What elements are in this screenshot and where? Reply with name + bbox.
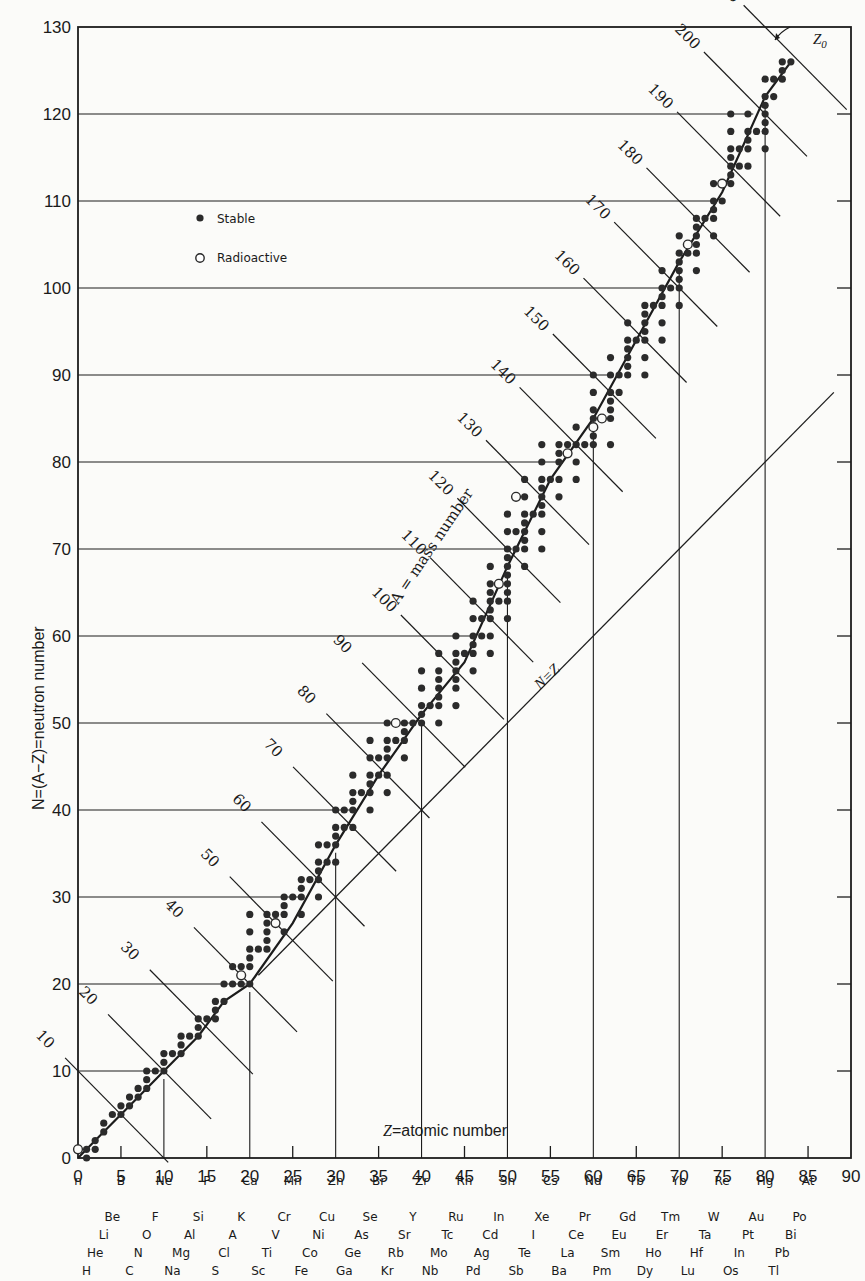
element-symbol: Re: [715, 1174, 730, 1188]
stable-point: [487, 598, 494, 605]
stable-point: [418, 719, 425, 726]
stable-point: [641, 354, 648, 361]
element-symbol: Be: [105, 1210, 121, 1224]
stable-point: [590, 389, 597, 396]
stable-point: [469, 667, 476, 674]
element-symbol: Sb: [508, 1264, 523, 1278]
isobar-line: [401, 615, 504, 719]
element-symbol: Te: [517, 1246, 531, 1260]
stable-point: [779, 58, 786, 65]
radioactive-point: [718, 179, 727, 188]
stable-point: [143, 1076, 150, 1083]
y-tick-label: 30: [52, 888, 71, 907]
isobar-line: [430, 558, 533, 662]
stable-point: [487, 589, 494, 596]
stable-point: [401, 754, 408, 761]
isobar-label: 140: [487, 355, 520, 388]
stable-point: [195, 1024, 202, 1031]
stable-point: [332, 833, 339, 840]
stable-point: [487, 650, 494, 657]
element-symbol: Bi: [785, 1228, 797, 1242]
stable-point: [332, 806, 339, 813]
stable-point: [650, 302, 657, 309]
stable-point: [658, 319, 665, 326]
isobar-label: 210: [711, 0, 744, 6]
stable-point: [727, 128, 734, 135]
isobar-line: [704, 52, 807, 156]
element-symbol: Kr: [381, 1264, 394, 1278]
stable-point: [538, 502, 545, 509]
stable-point: [418, 711, 425, 718]
stable-point: [710, 215, 717, 222]
stable-point: [409, 719, 416, 726]
y-tick-label: 0: [62, 1149, 71, 1168]
y-tick-label: 130: [43, 18, 71, 37]
stable-point: [624, 337, 631, 344]
element-symbol: I: [531, 1228, 535, 1242]
stable-point: [564, 441, 571, 448]
stable-point: [512, 545, 519, 552]
element-symbol: N: [134, 1246, 143, 1260]
stable-point: [83, 1146, 90, 1153]
stable-point: [435, 685, 442, 692]
stable-point: [487, 615, 494, 622]
stable-point: [762, 93, 769, 100]
legend: Stable Radioactive: [196, 212, 287, 265]
stable-point: [177, 1041, 184, 1048]
stable-point: [762, 145, 769, 152]
isobar-label: 150: [520, 302, 553, 335]
stable-point: [487, 580, 494, 587]
stable-point: [658, 302, 665, 309]
stable-point: [736, 163, 743, 170]
element-symbol: Mg: [172, 1246, 190, 1260]
stable-point: [435, 719, 442, 726]
stable-point: [762, 110, 769, 117]
element-symbol: Si: [193, 1210, 204, 1224]
element-symbol: Tb: [628, 1174, 644, 1188]
stable-point: [366, 772, 373, 779]
stable-point: [727, 154, 734, 161]
element-symbol: F: [152, 1210, 159, 1224]
element-symbol: Ba: [551, 1264, 567, 1278]
stable-point: [212, 1007, 219, 1014]
stable-point: [469, 632, 476, 639]
y-tick-label: 90: [52, 366, 71, 385]
stable-point: [590, 432, 597, 439]
stable-point: [581, 441, 588, 448]
stable-point: [521, 537, 528, 544]
stable-point: [727, 110, 734, 117]
isobar-line: [293, 767, 396, 871]
stable-point: [298, 885, 305, 892]
stable-point: [547, 476, 554, 483]
stable-point: [100, 1128, 107, 1135]
element-symbol: Pr: [579, 1210, 591, 1224]
stable-point: [504, 554, 511, 561]
stable-point: [607, 441, 614, 448]
stable-point: [478, 615, 485, 622]
stable-point: [676, 302, 683, 309]
stable-point: [255, 946, 262, 953]
stable-point: [607, 389, 614, 396]
stable-point: [744, 128, 751, 135]
element-symbol: Ti: [261, 1246, 272, 1260]
stable-point: [384, 789, 391, 796]
stable-point: [521, 519, 528, 526]
stable-point: [160, 1059, 167, 1066]
stable-point: [512, 528, 519, 535]
stable-point: [676, 258, 683, 265]
stable-point: [487, 606, 494, 613]
stable-point: [452, 685, 459, 692]
stable-point: [452, 676, 459, 683]
stable-point: [435, 667, 442, 674]
stable-point: [641, 337, 648, 344]
element-symbol: La: [561, 1246, 575, 1260]
stable-point: [315, 893, 322, 900]
stable-point: [366, 780, 373, 787]
radioactive-point: [391, 719, 400, 728]
stable-point: [469, 650, 476, 657]
stable-point: [590, 415, 597, 422]
element-symbol: K: [237, 1210, 246, 1224]
isobar-label: 180: [614, 136, 647, 169]
stable-point: [779, 76, 786, 83]
radioactive-point: [237, 971, 246, 980]
